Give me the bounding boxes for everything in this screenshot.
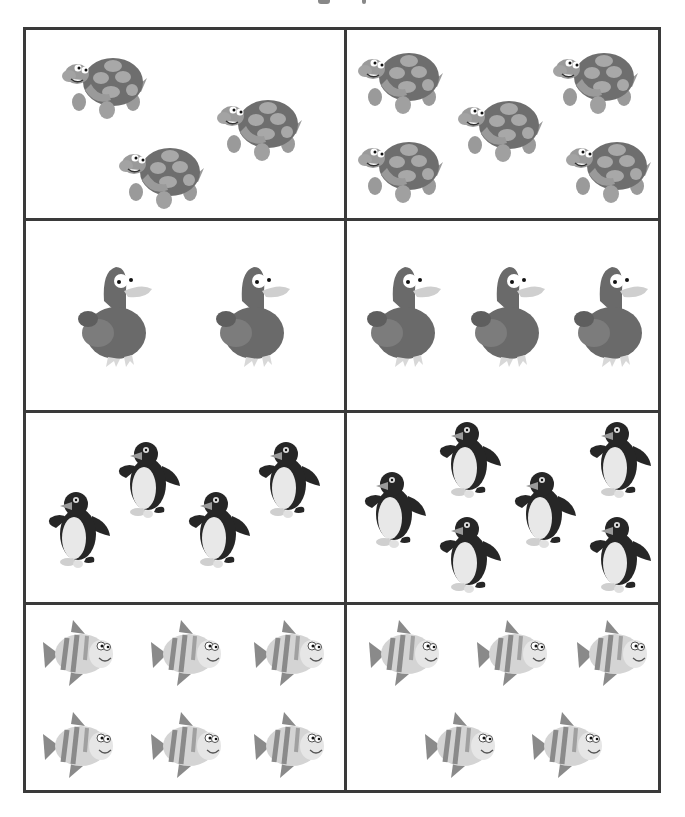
fish-icon [149,620,225,690]
turtle-icon [457,93,547,163]
cell-duck-right [347,221,661,410]
fish-icon [423,712,499,782]
fish-icon [252,712,328,782]
cell-duck-left [26,221,344,410]
fish-icon [41,620,117,690]
turtle-icon [565,134,655,204]
fish-icon [41,712,117,782]
penguin-icon [587,513,653,593]
cell-penguin-right [347,413,661,602]
duck-icon [469,261,549,371]
penguin-icon [512,468,578,548]
duck-icon [572,261,652,371]
cut-off-title-fragment [318,0,330,4]
turtle-icon [552,45,642,115]
cell-penguin-left [26,413,344,602]
cell-fish-left [26,605,344,790]
penguin-icon [437,513,503,593]
duck-icon [365,261,445,371]
fish-icon [252,620,328,690]
fish-icon [530,712,606,782]
cell-fish-right [347,605,661,790]
duck-icon [76,261,156,371]
fish-icon [575,620,651,690]
fish-icon [149,712,225,782]
penguin-icon [186,488,252,568]
turtle-icon [61,50,151,120]
penguin-icon [437,418,503,498]
turtle-icon [118,140,208,210]
turtle-icon [216,92,306,162]
penguin-icon [587,418,653,498]
penguin-icon [362,468,428,548]
penguin-icon [46,488,112,568]
counting-grid [23,27,661,793]
cut-off-title-fragment [362,0,366,4]
cell-turtle-right [347,30,661,218]
cell-turtle-left [26,30,344,218]
fish-icon [475,620,551,690]
duck-icon [214,261,294,371]
turtle-icon [357,45,447,115]
turtle-icon [357,134,447,204]
penguin-icon [256,438,322,518]
fish-icon [367,620,443,690]
penguin-icon [116,438,182,518]
